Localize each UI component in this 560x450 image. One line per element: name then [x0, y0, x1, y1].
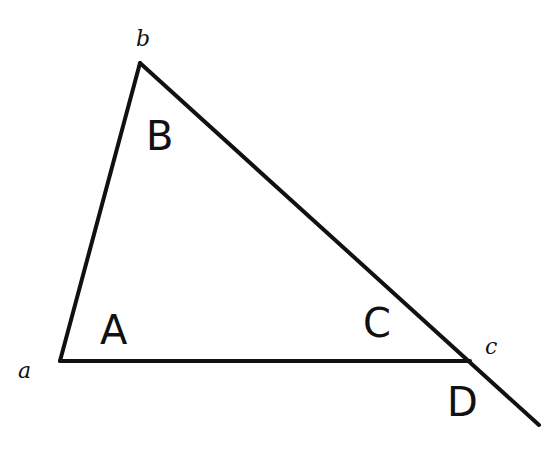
- angle-label-C: C: [363, 300, 391, 346]
- triangle-diagram: b a c B A C D: [0, 0, 560, 450]
- vertex-label-a: a: [18, 358, 31, 383]
- vertex-label-b: b: [136, 26, 150, 51]
- edge-bc-extended: [140, 63, 539, 425]
- angle-label-B: B: [146, 113, 173, 159]
- angle-label-A: A: [100, 307, 128, 353]
- vertex-label-c: c: [485, 334, 497, 359]
- angle-label-D: D: [447, 379, 478, 425]
